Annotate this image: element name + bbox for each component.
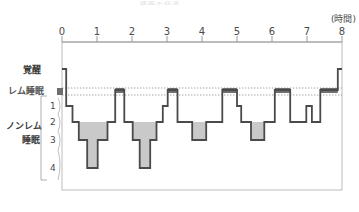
deep-sleep-region — [79, 122, 108, 168]
hypnogram-step-line — [62, 69, 342, 168]
deep-sleep-region — [133, 122, 157, 168]
stage-brace-2 — [58, 114, 60, 131]
rem-axis-marker — [57, 88, 63, 95]
y-axis-stage-bracket — [41, 96, 60, 180]
hypnogram-plot — [0, 0, 359, 212]
deep-sleep-region — [251, 122, 264, 140]
hypnogram-figure: 睡眠の経過 (時間) 012345678 覚醒レム睡眠ノンレム睡眠1234 — [0, 0, 359, 212]
stage-brace-1 — [58, 98, 60, 114]
stage-brace-3 — [58, 131, 60, 150]
deep-sleep-region — [192, 122, 206, 140]
plot-frame — [62, 42, 342, 190]
stage-brace-4 — [58, 150, 60, 180]
